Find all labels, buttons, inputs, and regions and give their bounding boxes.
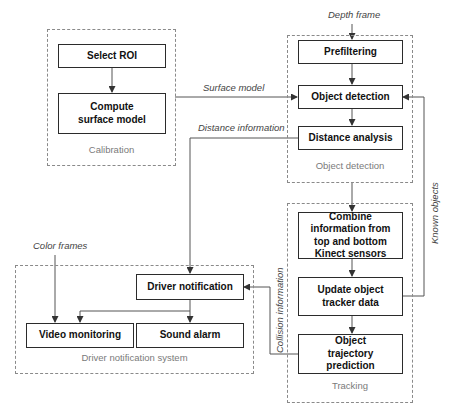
driver-notification-node: Driver notification bbox=[136, 274, 244, 300]
object-detection-group-label: Object detection bbox=[287, 160, 413, 171]
distance-analysis-node: Distance analysis bbox=[298, 126, 403, 150]
distance-information-label: Distance information bbox=[198, 122, 285, 133]
system-diagram: Calibration Select ROI Compute surface m… bbox=[0, 0, 452, 417]
update-tracker-node: Update object tracker data bbox=[298, 277, 403, 316]
combine-information-node: Combine information from top and bottom … bbox=[298, 212, 403, 259]
select-roi-node: Select ROI bbox=[58, 44, 166, 68]
collision-information-label: Collision information bbox=[274, 267, 285, 353]
color-frames-label: Color frames bbox=[33, 240, 87, 251]
driver-notification-system-label: Driver notification system bbox=[15, 352, 254, 363]
object-detection-node: Object detection bbox=[298, 85, 403, 109]
trajectory-prediction-node: Object trajectory prediction bbox=[298, 334, 403, 374]
prefiltering-node: Prefiltering bbox=[298, 40, 403, 64]
calibration-group-label: Calibration bbox=[47, 144, 176, 155]
tracking-group-label: Tracking bbox=[287, 380, 413, 391]
sound-alarm-node: Sound alarm bbox=[136, 323, 244, 348]
depth-frame-label: Depth frame bbox=[328, 9, 380, 20]
compute-surface-model-node: Compute surface model bbox=[58, 93, 166, 134]
surface-model-label: Surface model bbox=[203, 82, 264, 93]
video-monitoring-node: Video monitoring bbox=[26, 323, 134, 348]
known-objects-label: Known objects bbox=[429, 182, 440, 244]
